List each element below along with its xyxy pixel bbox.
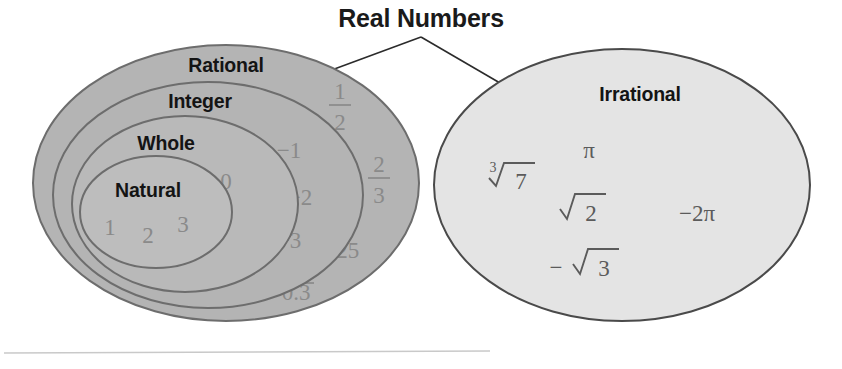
diagram-canvas: Real Numbers Rational 1 2 − 2 3 2.25	[0, 0, 842, 369]
natural-ellipse	[80, 156, 232, 268]
bottom-divider	[4, 351, 490, 353]
real-numbers-venn-diagram: Real Numbers Rational 1 2 − 2 3 2.25	[0, 0, 842, 369]
integer-label: Integer	[168, 90, 232, 112]
rational-member-2-3-numerator: 2	[373, 152, 385, 177]
rational-member-2-3-denominator: 3	[373, 183, 385, 208]
page-title: Real Numbers	[338, 4, 504, 32]
cube-root-radicand: 7	[515, 169, 527, 194]
neg-sqrt-3-radicand: 3	[598, 256, 610, 281]
whole-label: Whole	[137, 132, 195, 154]
natural-member-2: 2	[142, 223, 154, 248]
rational-member-1-2-numerator: 1	[334, 79, 346, 104]
natural-member-1: 1	[104, 215, 116, 240]
rational-label: Rational	[188, 54, 263, 76]
irrational-member-pi: π	[583, 138, 595, 163]
natural-member-3: 3	[177, 212, 189, 237]
cube-root-index: 3	[490, 160, 497, 175]
neg-sqrt-3-sign: −	[550, 255, 563, 280]
irrational-label: Irrational	[599, 83, 680, 105]
natural-label: Natural	[115, 179, 181, 201]
set-natural: Natural 1 2 3	[80, 156, 232, 268]
connector-line-right	[421, 37, 500, 83]
set-irrational: Irrational 3 7 π 2 −2π − 3	[434, 49, 810, 321]
sqrt-2-radicand: 2	[585, 201, 597, 226]
irrational-member-neg-2-pi: −2π	[679, 201, 715, 226]
